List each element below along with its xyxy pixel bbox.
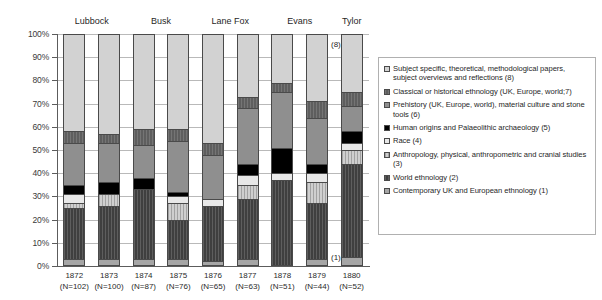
legend-item[interactable]: Contemporary UK and European ethnology (… <box>384 186 590 195</box>
bar-segment[interactable] <box>64 186 84 195</box>
bar-segment[interactable] <box>203 156 223 200</box>
bar-segment[interactable] <box>238 200 258 260</box>
bar-segment[interactable] <box>342 258 362 266</box>
bar-segment[interactable] <box>342 107 362 133</box>
bar-segment[interactable] <box>203 207 223 263</box>
bar-segment[interactable] <box>307 204 327 260</box>
bar-segment[interactable] <box>307 165 327 174</box>
legend-item-label: Contemporary UK and European ethnology (… <box>393 186 548 195</box>
bar-column[interactable] <box>341 34 363 266</box>
legend-swatch-icon <box>384 138 390 144</box>
group-label: Lubbock <box>75 16 109 26</box>
bar-segment[interactable] <box>342 35 362 93</box>
bar-segment[interactable] <box>168 197 188 204</box>
legend-item[interactable]: Subject specific, theoretical, methodolo… <box>384 64 590 83</box>
y-axis-tick-label: 30% <box>33 191 49 201</box>
bar-column[interactable] <box>306 34 328 266</box>
annotation-bottom: (1) <box>331 253 341 262</box>
legend-item[interactable]: Human origins and Palaeolithic archaeolo… <box>384 123 590 132</box>
bar-segment[interactable] <box>168 221 188 260</box>
bar-column[interactable] <box>133 34 155 266</box>
legend-item[interactable]: Anthropology, physical, anthropometric a… <box>384 150 590 169</box>
bar-segment[interactable] <box>168 204 188 220</box>
bar-segment[interactable] <box>307 183 327 204</box>
bar-segment[interactable] <box>64 144 84 186</box>
legend-item-label: Classical or historical ethnology (UK, E… <box>393 87 572 96</box>
bar-segment[interactable] <box>342 132 362 144</box>
bar-segment[interactable] <box>238 186 258 200</box>
x-axis-line <box>57 266 370 267</box>
legend-item-label: Subject specific, theoretical, methodolo… <box>393 64 590 83</box>
bar-column[interactable] <box>98 34 120 266</box>
legend: Subject specific, theoretical, methodolo… <box>378 57 596 235</box>
bar-segment[interactable] <box>99 183 119 195</box>
y-axis-tick-label: 50% <box>33 145 49 155</box>
bar-column[interactable] <box>167 34 189 266</box>
bar-segment[interactable] <box>238 176 258 185</box>
bar-segment[interactable] <box>238 35 258 98</box>
legend-item[interactable]: Race (4) <box>384 136 590 145</box>
bar-segment[interactable] <box>342 165 362 258</box>
legend-item-label: Prehistory (UK, Europe, world), material… <box>393 100 590 119</box>
bar-segment[interactable] <box>64 195 84 204</box>
bar-segment[interactable] <box>168 130 188 142</box>
bar-segment[interactable] <box>99 144 119 183</box>
bar-segment[interactable] <box>64 35 84 132</box>
y-axis-tick-label: 80% <box>33 75 49 85</box>
bar-column[interactable] <box>202 34 224 266</box>
bar-segment[interactable] <box>272 149 292 175</box>
legend-item-label: Anthropology, physical, anthropometric a… <box>393 150 590 169</box>
bar-segment[interactable] <box>272 181 292 266</box>
bar-segment[interactable] <box>272 174 292 181</box>
bar-segment[interactable] <box>307 35 327 102</box>
plot-area <box>57 34 369 266</box>
legend-swatch-icon <box>384 66 390 72</box>
y-axis: 0%10%20%30%40%50%60%70%80%90%100% <box>0 0 57 300</box>
y-axis-tick-label: 90% <box>33 52 49 62</box>
bar-column[interactable] <box>63 34 85 266</box>
y-axis-tick-label: 70% <box>33 99 49 109</box>
bar-segment[interactable] <box>134 179 154 191</box>
bar-segment[interactable] <box>134 190 154 260</box>
bar-segment[interactable] <box>238 109 258 165</box>
bar-segment[interactable] <box>168 35 188 130</box>
y-axis-tick-label: 20% <box>33 215 49 225</box>
bar-segment[interactable] <box>307 102 327 118</box>
bar-segment[interactable] <box>238 165 258 177</box>
bar-column[interactable] <box>271 34 293 266</box>
bar-segment[interactable] <box>64 132 84 144</box>
bar-segment[interactable] <box>99 195 119 207</box>
legend-item-label: World ethnology (2) <box>393 173 458 182</box>
bar-segment[interactable] <box>238 98 258 110</box>
bar-segment[interactable] <box>272 93 292 149</box>
bar-segment[interactable] <box>134 146 154 178</box>
y-axis-tick-label: 40% <box>33 168 49 178</box>
legend-swatch-icon <box>384 175 390 181</box>
bar-segment[interactable] <box>99 207 119 260</box>
bar-segment[interactable] <box>307 174 327 183</box>
group-label: Busk <box>151 16 171 26</box>
legend-item-label: Human origins and Palaeolithic archaeolo… <box>393 123 550 132</box>
bar-column[interactable] <box>237 34 259 266</box>
bar-segment[interactable] <box>134 35 154 130</box>
bar-segment[interactable] <box>272 35 292 84</box>
group-label: Tylor <box>342 16 362 26</box>
bar-segment[interactable] <box>203 144 223 156</box>
bar-segment[interactable] <box>99 135 119 144</box>
legend-item[interactable]: Classical or historical ethnology (UK, E… <box>384 87 590 96</box>
bar-segment[interactable] <box>203 35 223 144</box>
bar-segment[interactable] <box>307 119 327 165</box>
bar-segment[interactable] <box>134 130 154 146</box>
bar-segment[interactable] <box>342 151 362 165</box>
y-axis-tick-label: 10% <box>33 238 49 248</box>
bar-segment[interactable] <box>272 84 292 93</box>
bar-segment[interactable] <box>342 144 362 151</box>
y-axis-tick-label: 100% <box>28 29 49 39</box>
bar-segment[interactable] <box>64 209 84 260</box>
bar-segment[interactable] <box>99 35 119 135</box>
bar-segment[interactable] <box>203 200 223 207</box>
legend-item[interactable]: World ethnology (2) <box>384 173 590 182</box>
legend-item[interactable]: Prehistory (UK, Europe, world), material… <box>384 100 590 119</box>
bar-segment[interactable] <box>342 93 362 107</box>
bar-segment[interactable] <box>168 142 188 193</box>
